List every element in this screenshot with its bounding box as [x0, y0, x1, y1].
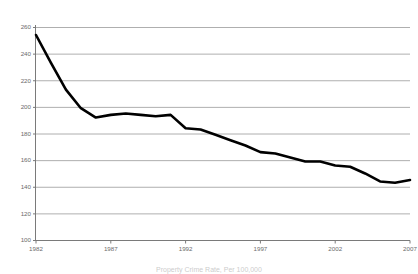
- y-tick-label: 260: [21, 23, 32, 30]
- chart-caption-clipped: Property Crime Rate, Per 100,000: [0, 266, 418, 274]
- x-axis-ticks: 198219871992199720022007: [29, 241, 417, 253]
- y-tick-label: 100: [21, 236, 32, 243]
- y-tick-label: 120: [21, 210, 32, 217]
- y-tick-label: 160: [21, 156, 32, 163]
- x-tick-label: 1982: [29, 245, 43, 252]
- x-tick-label: 2007: [403, 245, 417, 252]
- y-tick-label: 180: [21, 130, 32, 137]
- x-tick-label: 1997: [254, 245, 268, 252]
- chart-plot-area: 100120140160180200220240260 198219871992…: [0, 0, 418, 274]
- chart-caption-text: Property Crime Rate, Per 100,000: [0, 266, 418, 274]
- x-tick-label: 1992: [179, 245, 193, 252]
- line-chart-figure: 100120140160180200220240260 198219871992…: [0, 0, 418, 274]
- y-tick-label: 140: [21, 183, 32, 190]
- y-tick-label: 220: [21, 77, 32, 84]
- gridlines-horizontal: [36, 28, 410, 241]
- y-tick-label: 200: [21, 103, 32, 110]
- x-tick-label: 1987: [104, 245, 118, 252]
- x-tick-label: 2002: [328, 245, 342, 252]
- y-axis-ticks: 100120140160180200220240260: [21, 23, 36, 243]
- y-tick-label: 240: [21, 50, 32, 57]
